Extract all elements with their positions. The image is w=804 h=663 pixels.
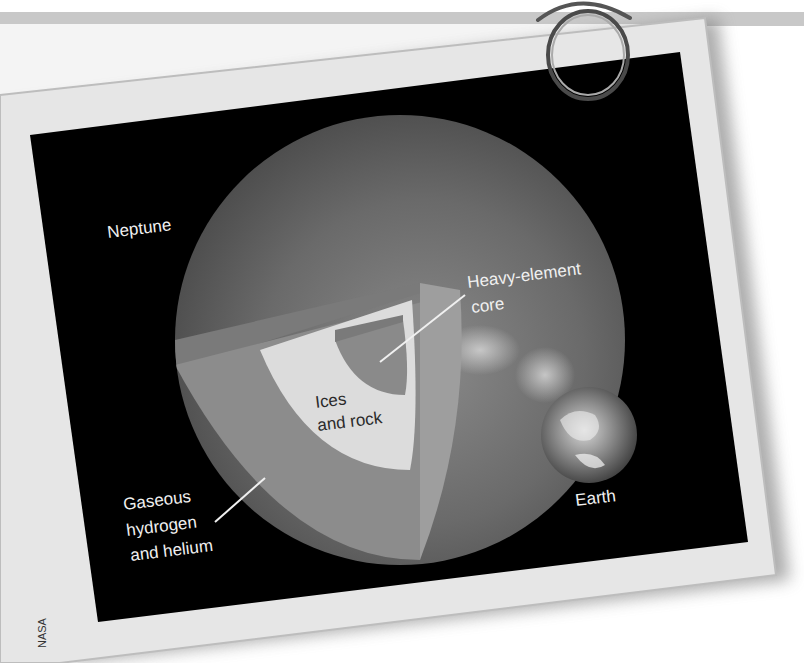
label-core-line2: core bbox=[470, 294, 505, 317]
figure-stage: Neptune Heavy-element core Gaseous hydro… bbox=[0, 0, 804, 663]
stamp-illustration: Neptune Heavy-element core Gaseous hydro… bbox=[0, 0, 804, 663]
label-mantle-line1: Ices bbox=[314, 389, 347, 412]
credit-label: NASA bbox=[36, 617, 48, 648]
earth-planet bbox=[541, 387, 637, 483]
